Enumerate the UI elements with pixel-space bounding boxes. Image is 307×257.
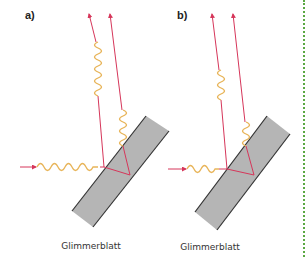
incoming-ray-a xyxy=(20,164,104,171)
reflected-ray-a1 xyxy=(89,14,104,167)
reflected-ray-b1 xyxy=(212,14,227,169)
panel-b-label: b) xyxy=(177,9,187,21)
panel-b xyxy=(168,14,290,230)
panel-a-label: a) xyxy=(25,9,35,21)
panel-a-caption: Glimmerblatt xyxy=(61,241,121,251)
interference-diagram xyxy=(0,0,307,257)
panel-b-caption: Glimmerblatt xyxy=(180,242,240,252)
dotted-border xyxy=(303,0,305,257)
diagram-stage: a) b) Glimmerblatt Glimmerblatt xyxy=(0,0,307,257)
mica-plate-b xyxy=(195,116,290,230)
panel-a xyxy=(20,14,169,227)
incoming-ray-b xyxy=(168,166,227,173)
reflected-ray-b2 xyxy=(233,14,250,146)
reflected-ray-a2 xyxy=(110,14,127,146)
